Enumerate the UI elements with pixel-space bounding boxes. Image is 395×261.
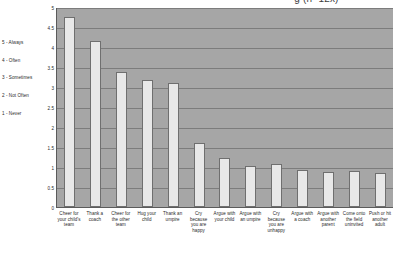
bar <box>219 158 230 207</box>
bar <box>349 171 360 207</box>
y-axis-tick-label: 2 <box>40 126 54 131</box>
x-axis: Cheer for your child's teamThank a coach… <box>56 211 393 261</box>
x-axis-tick-label: Argue with another parent <box>316 211 340 261</box>
x-axis-tick-label: Cry because you are unhappy <box>264 211 288 261</box>
y-axis-tick-label: 4 <box>40 46 54 51</box>
x-axis-tick-label: Come onto the field uninvited <box>342 211 366 261</box>
plot-area <box>56 8 393 208</box>
x-axis-tick-label: Thank a coach <box>83 211 107 261</box>
bar <box>375 173 386 207</box>
y-axis-tick-label: 1.5 <box>40 146 54 151</box>
y-axis-tick-label: 5 <box>40 6 54 11</box>
bar <box>194 143 205 207</box>
x-axis-tick-label: Hug your child <box>135 211 159 261</box>
bar <box>90 41 101 207</box>
y-axis-tick-label: 3 <box>40 86 54 91</box>
bar <box>323 172 334 207</box>
x-axis-tick-label: Cheer for your child's team <box>57 211 81 261</box>
bar <box>142 80 153 207</box>
x-axis-tick-label: Push or hit another adult <box>368 211 392 261</box>
x-axis-tick-label: Argue with your child <box>212 211 236 261</box>
y-axis-tick-label: 4.5 <box>40 26 54 31</box>
bar <box>64 17 75 207</box>
bar <box>245 166 256 207</box>
bar-chart: g (n=12x) 5 - Always 4 - Often 3 - Somet… <box>0 0 395 261</box>
chart-title: g (n=12x) <box>238 0 395 5</box>
bar-series <box>57 8 393 207</box>
x-axis-tick-label: Cheer for the other team <box>109 211 133 261</box>
x-axis-tick-label: Cry because you are happy <box>187 211 211 261</box>
bar <box>116 72 127 207</box>
bar <box>297 170 308 207</box>
x-axis-tick-label: Argue with a coach <box>290 211 314 261</box>
y-axis: 54.543.532.521.510.50 <box>40 0 54 212</box>
y-axis-tick-label: 0.5 <box>40 186 54 191</box>
y-axis-tick-label: 2.5 <box>40 106 54 111</box>
x-axis-tick-label: Argue with an umpire <box>238 211 262 261</box>
y-axis-tick-label: 1 <box>40 166 54 171</box>
y-axis-tick-label: 3.5 <box>40 66 54 71</box>
x-axis-tick-label: Thank an umpire <box>161 211 185 261</box>
bar <box>271 164 282 207</box>
bar <box>168 83 179 207</box>
y-axis-tick-label: 0 <box>40 206 54 211</box>
